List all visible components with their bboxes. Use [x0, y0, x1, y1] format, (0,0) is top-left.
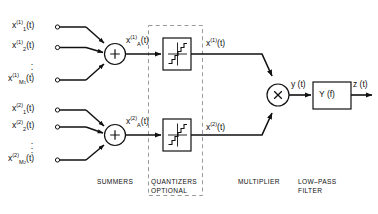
caption-quantizers: QUANTIZERS OPTIONAL — [151, 178, 197, 195]
summer-2 — [105, 125, 126, 146]
input-label-g1-1: x(1)1(t) — [12, 20, 34, 32]
filter-output-label: z (t) — [353, 80, 368, 89]
multiplier-output-label: y (t) — [291, 80, 306, 89]
group2-input-lines — [55, 108, 104, 162]
caption-summers: SUMMERS — [97, 178, 133, 187]
group1-input-lines — [55, 25, 104, 82]
quantizer2-to-multiplier-line — [191, 113, 272, 135]
caption-lowpass-line1: LOW–PASS — [298, 178, 337, 187]
multiplier — [267, 84, 289, 106]
input-label-g2-m: x(2)M2(t) — [8, 153, 34, 165]
caption-lowpass-filter: LOW–PASS FILTER — [298, 178, 337, 195]
input-label-g1-m: x(1)M1(t) — [8, 73, 34, 85]
filter-transfer-label: Y (f) — [319, 90, 335, 99]
caption-quantizers-line1: QUANTIZERS — [151, 178, 197, 187]
summer2-output-label: x(2)A(t) — [126, 116, 149, 128]
block-diagram-figure: x(1)1(t) x(1)2(t) ... x(1)M1(t) x(2)1(t)… — [0, 0, 378, 214]
caption-quantizers-line2: OPTIONAL — [151, 187, 197, 196]
summer1-output-label: x(1)A(t) — [126, 35, 149, 47]
summer-1 — [105, 44, 126, 65]
ellipsis-g2: ... — [27, 139, 37, 153]
quantizer1-to-multiplier-line — [191, 54, 272, 76]
input-label-g2-1: x(2)1(t) — [12, 103, 34, 115]
quantizer2-output-label: x(2)(t) — [206, 122, 225, 131]
ellipsis-g1: ... — [27, 60, 37, 74]
quantizer1-output-label: x(1)(t) — [206, 38, 225, 47]
quantizer-1 — [163, 38, 191, 70]
input-label-g1-2: x(1)2(t) — [12, 40, 34, 52]
caption-multiplier: MULTIPLIER — [238, 178, 280, 187]
input-label-g2-2: x(2)2(t) — [12, 120, 34, 132]
caption-lowpass-line2: FILTER — [298, 187, 337, 196]
quantizer-2 — [163, 119, 191, 151]
